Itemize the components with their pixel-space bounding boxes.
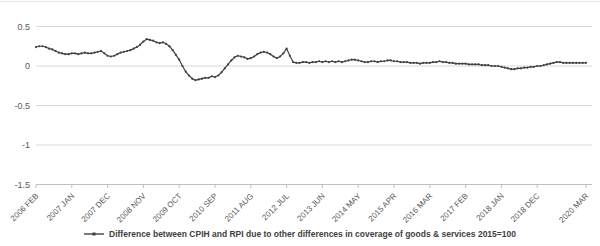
data-point-marker bbox=[474, 63, 476, 65]
data-point-marker bbox=[168, 45, 170, 47]
data-point-marker bbox=[211, 75, 213, 77]
data-point-marker bbox=[282, 52, 284, 54]
data-point-marker bbox=[71, 52, 73, 54]
data-point-marker bbox=[543, 64, 545, 66]
data-point-marker bbox=[523, 66, 525, 68]
data-point-marker bbox=[120, 51, 122, 53]
data-point-marker bbox=[84, 51, 86, 53]
data-point-marker bbox=[491, 65, 493, 67]
data-point-marker bbox=[500, 66, 502, 68]
data-point-marker bbox=[536, 65, 538, 67]
data-point-marker bbox=[445, 61, 447, 63]
data-point-marker bbox=[539, 65, 541, 67]
x-tick-label: 2007 JAN bbox=[45, 191, 76, 222]
data-point-marker bbox=[328, 61, 330, 63]
data-point-marker bbox=[338, 60, 340, 62]
data-point-marker bbox=[113, 55, 115, 57]
data-point-marker bbox=[289, 55, 291, 57]
data-point-marker bbox=[315, 61, 317, 63]
data-point-marker bbox=[497, 65, 499, 67]
data-point-marker bbox=[308, 62, 310, 64]
data-point-marker bbox=[517, 67, 519, 69]
data-point-marker bbox=[377, 61, 379, 63]
data-point-marker bbox=[227, 63, 229, 65]
data-point-marker bbox=[360, 60, 362, 62]
data-point-marker bbox=[513, 68, 515, 70]
data-point-marker bbox=[429, 62, 431, 64]
data-point-marker bbox=[393, 60, 395, 62]
x-tick-label: 2007 DEC bbox=[80, 191, 113, 224]
data-point-marker bbox=[194, 79, 196, 81]
data-point-marker bbox=[321, 61, 323, 63]
data-point-marker bbox=[41, 45, 43, 47]
data-point-marker bbox=[181, 65, 183, 67]
data-point-marker bbox=[451, 62, 453, 64]
data-point-marker bbox=[403, 61, 405, 63]
data-point-marker bbox=[344, 60, 346, 62]
data-point-marker bbox=[354, 59, 356, 61]
data-point-marker bbox=[220, 71, 222, 73]
data-point-marker bbox=[331, 60, 333, 62]
x-tick-label: 2011 AUG bbox=[223, 192, 255, 224]
data-point-marker bbox=[269, 53, 271, 55]
data-point-marker bbox=[494, 65, 496, 67]
data-point-marker bbox=[481, 64, 483, 66]
data-point-marker bbox=[97, 51, 99, 53]
data-point-marker bbox=[412, 62, 414, 64]
y-tick-label: -0.5 bbox=[14, 101, 30, 111]
data-point-marker bbox=[276, 57, 278, 59]
data-point-marker bbox=[468, 63, 470, 65]
data-point-marker bbox=[585, 62, 587, 64]
data-point-marker bbox=[432, 61, 434, 63]
data-point-marker bbox=[133, 48, 135, 50]
data-point-marker bbox=[530, 66, 532, 68]
data-point-marker bbox=[207, 77, 209, 79]
data-point-marker bbox=[185, 70, 187, 72]
data-point-marker bbox=[367, 61, 369, 63]
data-point-marker bbox=[484, 64, 486, 66]
data-point-marker bbox=[455, 63, 457, 65]
data-point-marker bbox=[266, 51, 268, 53]
data-point-marker bbox=[507, 67, 509, 69]
data-point-marker bbox=[139, 44, 141, 46]
data-point-marker bbox=[162, 41, 164, 43]
series-markers bbox=[35, 38, 587, 81]
data-point-marker bbox=[240, 55, 242, 57]
data-point-marker bbox=[380, 60, 382, 62]
data-point-marker bbox=[396, 60, 398, 62]
data-point-marker bbox=[478, 63, 480, 65]
data-point-marker bbox=[572, 62, 574, 64]
y-tick-label: -1 bbox=[22, 140, 30, 150]
data-point-marker bbox=[552, 62, 554, 64]
data-point-marker bbox=[67, 53, 69, 55]
x-tick-label: 2006 FEB bbox=[9, 192, 41, 224]
data-point-marker bbox=[533, 66, 535, 68]
data-point-marker bbox=[90, 52, 92, 54]
x-tick-label: 2010 SEP bbox=[188, 192, 220, 224]
data-point-marker bbox=[152, 40, 154, 42]
data-point-marker bbox=[250, 57, 252, 59]
cpih-rpi-difference-chart: 0.50-0.5-1-1.52006 FEB2007 JAN2007 DEC20… bbox=[0, 0, 600, 246]
data-point-marker bbox=[312, 61, 314, 63]
data-point-marker bbox=[510, 68, 512, 70]
data-point-marker bbox=[263, 51, 265, 53]
x-tick-label: 2018 DEC bbox=[509, 191, 542, 224]
data-point-marker bbox=[295, 62, 297, 64]
data-point-marker bbox=[504, 66, 506, 68]
data-point-marker bbox=[305, 61, 307, 63]
x-tick-label: 2012 JUL bbox=[260, 191, 291, 222]
data-point-marker bbox=[549, 63, 551, 65]
data-point-marker bbox=[464, 63, 466, 65]
legend-line-marker-icon bbox=[84, 230, 104, 238]
data-point-marker bbox=[272, 55, 274, 57]
data-point-marker bbox=[357, 59, 359, 61]
data-point-marker bbox=[80, 52, 82, 54]
data-point-marker bbox=[259, 51, 261, 53]
data-point-marker bbox=[425, 62, 427, 64]
data-point-marker bbox=[77, 53, 79, 55]
data-point-marker bbox=[334, 61, 336, 63]
data-point-marker bbox=[347, 59, 349, 61]
data-point-marker bbox=[422, 62, 424, 64]
data-point-marker bbox=[383, 60, 385, 62]
y-tick-label: -1.5 bbox=[14, 180, 30, 190]
